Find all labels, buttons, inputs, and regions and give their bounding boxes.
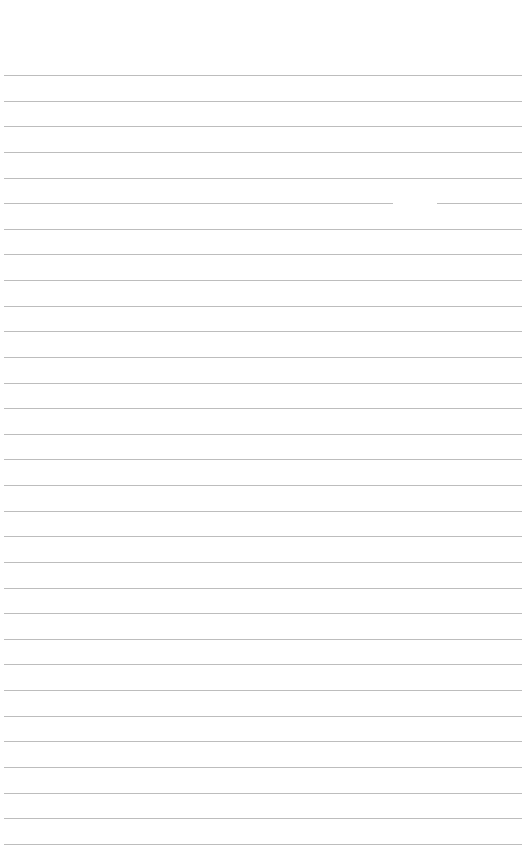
ruled-line bbox=[4, 818, 522, 819]
ruled-line bbox=[4, 716, 522, 717]
ruled-line bbox=[4, 357, 522, 358]
ruled-line bbox=[4, 383, 522, 384]
ruled-line bbox=[4, 101, 522, 102]
ruled-line bbox=[4, 511, 522, 512]
line-gap bbox=[393, 202, 437, 205]
ruled-line bbox=[4, 562, 522, 563]
ruled-line bbox=[4, 536, 522, 537]
ruled-line bbox=[4, 152, 522, 153]
ruled-line bbox=[4, 229, 522, 230]
ruled-line bbox=[4, 408, 522, 409]
ruled-line bbox=[4, 664, 522, 665]
ruled-line bbox=[4, 844, 522, 845]
ruled-line bbox=[4, 690, 522, 691]
ruled-line bbox=[4, 203, 522, 204]
ruled-line bbox=[4, 75, 522, 76]
ruled-line bbox=[4, 126, 522, 127]
ruled-line bbox=[4, 280, 522, 281]
ruled-line bbox=[4, 741, 522, 742]
lined-paper bbox=[0, 0, 525, 867]
ruled-line bbox=[4, 639, 522, 640]
ruled-line bbox=[4, 459, 522, 460]
ruled-line bbox=[4, 178, 522, 179]
ruled-line bbox=[4, 331, 522, 332]
ruled-line bbox=[4, 588, 522, 589]
ruled-line bbox=[4, 485, 522, 486]
ruled-line bbox=[4, 613, 522, 614]
ruled-line bbox=[4, 306, 522, 307]
ruled-line bbox=[4, 793, 522, 794]
ruled-line bbox=[4, 767, 522, 768]
ruled-line bbox=[4, 254, 522, 255]
ruled-line bbox=[4, 434, 522, 435]
